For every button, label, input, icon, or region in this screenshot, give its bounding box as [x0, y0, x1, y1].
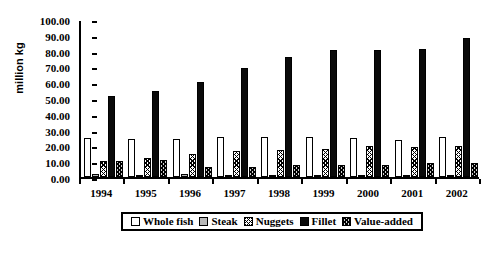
y-axis-tick-labels: 100.0090.0080.0070.0060.0050.0040.0030.0… [18, 21, 74, 179]
x-tick-label-1994: 1994 [79, 186, 123, 200]
bar-whole-fish-1997 [217, 137, 224, 177]
bar-whole-fish-1998 [261, 137, 268, 177]
bar-steak-1998 [269, 175, 276, 177]
bar-fillet-2002 [463, 38, 470, 177]
bar-value-added-1995 [160, 160, 167, 177]
legend-swatch-whole-fish-icon [131, 217, 140, 226]
legend-label-value-added: Value-added [354, 216, 413, 227]
legend-swatch-value-added-icon [342, 217, 351, 226]
legend-item-whole-fish[interactable]: Whole fish [131, 216, 193, 227]
bar-fillet-1994 [108, 96, 115, 177]
bar-nuggets-1996 [189, 154, 196, 177]
legend-label-nuggets: Nuggets [256, 216, 294, 227]
bar-fillet-1997 [241, 68, 248, 177]
bar-steak-1997 [225, 175, 232, 177]
bar-steak-1999 [314, 175, 321, 177]
bar-group-1998 [259, 21, 303, 177]
bar-whole-fish-2001 [395, 140, 402, 177]
bar-group-1994 [81, 21, 125, 177]
x-tick-mark [168, 179, 170, 184]
x-tick-mark [390, 179, 392, 184]
x-axis-tick-labels: 199419951996199719981999200020012002 [79, 186, 479, 202]
y-tick-label: 40.00 [14, 110, 70, 121]
y-tick-label: 70.00 [14, 63, 70, 74]
bar-steak-2002 [447, 175, 454, 177]
bar-steak-1994 [92, 174, 99, 177]
bar-nuggets-1995 [144, 158, 151, 177]
bar-nuggets-2001 [411, 147, 418, 177]
x-tick-label-1996: 1996 [168, 186, 212, 200]
bar-value-added-1996 [205, 167, 212, 177]
bar-group-1996 [170, 21, 214, 177]
bar-group-1999 [303, 21, 347, 177]
bar-group-1995 [125, 21, 169, 177]
x-tick-label-2002: 2002 [435, 186, 479, 200]
bar-steak-1995 [136, 175, 143, 177]
x-tick-mark [435, 179, 437, 184]
y-tick-label: 100.00 [14, 16, 70, 27]
legend-item-nuggets[interactable]: Nuggets [244, 216, 294, 227]
bar-chart: million kg 100.0090.0080.0070.0060.0050.… [0, 0, 491, 254]
y-tick-label: 0.00 [14, 174, 70, 185]
bar-fillet-2000 [374, 50, 381, 177]
x-tick-label-1999: 1999 [301, 186, 345, 200]
bar-whole-fish-2002 [439, 137, 446, 177]
legend-label-steak: Steak [211, 216, 237, 227]
bar-group-1997 [214, 21, 258, 177]
bar-whole-fish-1994 [84, 138, 91, 178]
bar-value-added-2000 [382, 165, 389, 177]
legend-swatch-nuggets-icon [244, 217, 253, 226]
bar-group-2000 [348, 21, 392, 177]
bar-nuggets-2002 [455, 146, 462, 177]
legend-label-fillet: Fillet [312, 216, 336, 227]
plot-area [79, 21, 479, 179]
bar-fillet-1996 [197, 82, 204, 177]
bar-whole-fish-1999 [306, 137, 313, 177]
x-tick-label-1995: 1995 [124, 186, 168, 200]
bar-fillet-1999 [330, 50, 337, 177]
bar-fillet-1995 [152, 91, 159, 177]
bar-value-added-1998 [293, 165, 300, 177]
y-tick-label: 20.00 [14, 142, 70, 153]
bar-group-2001 [392, 21, 436, 177]
x-tick-mark [212, 179, 214, 184]
x-tick-mark [257, 179, 259, 184]
bar-value-added-2001 [427, 163, 434, 177]
x-tick-mark [346, 179, 348, 184]
x-tick-label-2000: 2000 [346, 186, 390, 200]
legend-item-fillet[interactable]: Fillet [300, 216, 336, 227]
y-tick-label: 90.00 [14, 31, 70, 42]
bar-value-added-1997 [249, 167, 256, 177]
y-tick-label: 60.00 [14, 79, 70, 90]
chart-legend: Whole fishSteakNuggetsFilletValue-added [121, 212, 423, 231]
y-tick-label: 50.00 [14, 95, 70, 106]
legend-item-steak[interactable]: Steak [199, 216, 237, 227]
bar-steak-2001 [403, 175, 410, 177]
bar-group-2002 [437, 21, 481, 177]
bar-fillet-1998 [285, 57, 292, 177]
legend-swatch-steak-icon [199, 217, 208, 226]
x-tick-mark [301, 179, 303, 184]
bar-nuggets-1998 [277, 150, 284, 177]
bar-fillet-2001 [419, 49, 426, 177]
y-tick-label: 30.00 [14, 126, 70, 137]
x-tick-mark [123, 179, 125, 184]
bar-nuggets-2000 [366, 146, 373, 177]
bar-steak-1996 [181, 174, 188, 177]
bar-value-added-1999 [338, 165, 345, 177]
legend-label-whole-fish: Whole fish [143, 216, 193, 227]
bar-nuggets-1999 [322, 149, 329, 177]
x-axis-tick-marks [79, 179, 479, 185]
bar-whole-fish-1996 [173, 139, 180, 177]
y-tick-label: 10.00 [14, 158, 70, 169]
bar-nuggets-1994 [100, 161, 107, 177]
legend-swatch-fillet-icon [300, 217, 309, 226]
x-tick-mark [479, 179, 481, 184]
bar-value-added-1994 [116, 161, 123, 177]
bar-value-added-2002 [471, 163, 478, 177]
x-tick-label-2001: 2001 [390, 186, 434, 200]
x-tick-mark [79, 179, 81, 184]
legend-item-value-added[interactable]: Value-added [342, 216, 413, 227]
x-tick-label-1998: 1998 [257, 186, 301, 200]
x-tick-label-1997: 1997 [213, 186, 257, 200]
